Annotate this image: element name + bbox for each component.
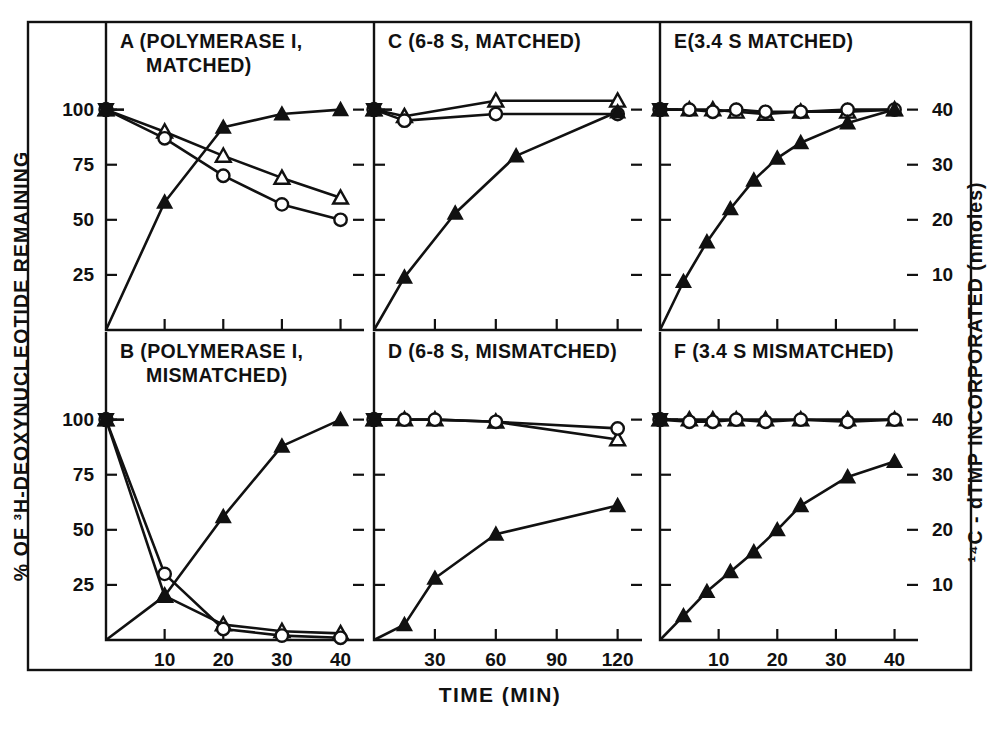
ytick-label-right: 40 bbox=[932, 99, 953, 120]
data-marker-filled-triangle bbox=[794, 498, 808, 511]
ytick-label-left: 75 bbox=[73, 154, 95, 175]
origin-cluster-d bbox=[367, 412, 392, 427]
ytick-label-right: 10 bbox=[932, 264, 953, 285]
ytick-label-left: 25 bbox=[73, 574, 95, 595]
data-marker-open-circle bbox=[759, 106, 771, 118]
xtick-label: 40 bbox=[884, 649, 905, 670]
markers-filled-triangle-c bbox=[397, 105, 625, 283]
xtick-label: 90 bbox=[546, 649, 567, 670]
series-filled-triangle-c bbox=[374, 112, 618, 330]
data-marker-open-circle bbox=[611, 422, 623, 434]
data-marker-open-circle bbox=[683, 416, 695, 428]
markers-filled-triangle-d bbox=[397, 498, 625, 630]
series-filled-triangle-f bbox=[660, 462, 895, 641]
series-filled-triangle-e bbox=[660, 110, 895, 330]
data-marker-open-circle bbox=[888, 413, 900, 425]
data-marker-open-circle bbox=[429, 413, 441, 425]
markers-filled-triangle-f bbox=[676, 454, 901, 621]
xtick-label: 20 bbox=[767, 649, 788, 670]
xtick-label: 30 bbox=[825, 649, 846, 670]
data-marker-open-circle bbox=[334, 214, 346, 226]
data-marker-filled-triangle bbox=[610, 498, 624, 511]
ytick-label-left: 50 bbox=[73, 209, 94, 230]
data-marker-open-circle bbox=[398, 114, 410, 126]
panel-c: C (6-8 S, MATCHED) bbox=[367, 22, 642, 330]
xtick-label: 30 bbox=[424, 649, 445, 670]
x-axis-title: TIME (MIN) bbox=[439, 683, 561, 706]
markers-open-triangle-b bbox=[99, 412, 348, 639]
panel-label-b-line2: MISMATCHED) bbox=[146, 364, 288, 386]
ytick-label-right: 40 bbox=[932, 409, 953, 430]
data-marker-open-circle bbox=[158, 568, 170, 580]
series-filled-triangle-b bbox=[106, 420, 341, 640]
ytick-label-left: 75 bbox=[73, 464, 95, 485]
panel-label-b: B (POLYMERASE I, bbox=[120, 340, 303, 362]
panel-d: 306090120D (6-8 S, MISMATCHED) bbox=[367, 332, 642, 670]
data-marker-open-circle bbox=[730, 103, 742, 115]
markers-filled-triangle-a bbox=[157, 102, 347, 208]
ytick-label-right: 20 bbox=[932, 209, 953, 230]
series-path bbox=[660, 110, 895, 330]
data-marker-filled-triangle bbox=[509, 149, 523, 162]
ytick-label-left: 25 bbox=[73, 264, 95, 285]
series-path bbox=[106, 420, 341, 634]
data-marker-open-circle bbox=[334, 632, 346, 644]
panel-axes-f bbox=[660, 332, 918, 640]
data-marker-open-circle bbox=[490, 416, 502, 428]
panel-axes-e bbox=[660, 22, 918, 330]
data-marker-open-circle bbox=[841, 103, 853, 115]
panel-label-e: E(3.4 S MATCHED) bbox=[674, 30, 853, 52]
panel-a: 100755025A (POLYMERASE I,MATCHED) bbox=[62, 22, 364, 330]
xtick-label: 10 bbox=[708, 649, 729, 670]
panel-label-a-line2: MATCHED) bbox=[146, 54, 252, 76]
panel-label-d: D (6-8 S, MISMATCHED) bbox=[388, 340, 617, 362]
data-marker-open-circle bbox=[276, 198, 288, 210]
series-open-triangle-b bbox=[106, 420, 341, 634]
markers-filled-triangle-b bbox=[157, 412, 347, 601]
markers-open-circle-b bbox=[100, 413, 347, 644]
ytick-label-left: 100 bbox=[62, 409, 94, 430]
data-marker-open-circle bbox=[398, 413, 410, 425]
series-path bbox=[374, 112, 618, 330]
figure-root: 100755025A (POLYMERASE I,MATCHED)1007550… bbox=[0, 0, 999, 729]
series-path bbox=[660, 462, 895, 641]
ytick-label-right: 20 bbox=[932, 519, 953, 540]
markers-filled-triangle-e bbox=[676, 102, 901, 287]
data-marker-open-circle bbox=[841, 416, 853, 428]
ytick-label-right: 30 bbox=[932, 464, 953, 485]
xtick-label: 10 bbox=[154, 649, 175, 670]
data-marker-open-circle bbox=[683, 103, 695, 115]
panel-axes-c bbox=[374, 22, 642, 330]
data-marker-open-circle bbox=[158, 132, 170, 144]
series-filled-triangle-a bbox=[106, 110, 341, 330]
data-marker-filled-triangle bbox=[887, 454, 901, 467]
panel-e: 40302010E(3.4 S MATCHED) bbox=[653, 22, 954, 330]
ytick-label-left: 50 bbox=[73, 519, 94, 540]
data-marker-open-circle bbox=[795, 106, 807, 118]
xtick-label: 20 bbox=[213, 649, 234, 670]
data-marker-filled-triangle bbox=[333, 412, 347, 425]
y-axis-title-left: % OF ³H-DEOXYNUCLEOTIDE REMAINING bbox=[10, 151, 32, 582]
panel-b: 10075502510203040B (POLYMERASE I,MISMATC… bbox=[62, 332, 364, 670]
series-path bbox=[106, 420, 341, 640]
series-path bbox=[106, 110, 341, 330]
xtick-label: 120 bbox=[602, 649, 634, 670]
panel-axes-d bbox=[374, 332, 642, 640]
xtick-label: 30 bbox=[271, 649, 292, 670]
panel-label-f: F (3.4 S MISMATCHED) bbox=[674, 340, 894, 362]
ytick-label-right: 30 bbox=[932, 154, 953, 175]
data-marker-open-circle bbox=[795, 413, 807, 425]
origin-cluster-e bbox=[653, 102, 678, 117]
data-marker-open-circle bbox=[490, 108, 502, 120]
data-marker-filled-triangle bbox=[770, 151, 784, 164]
data-marker-open-circle bbox=[276, 629, 288, 641]
panel-f: 4030201010203040F (3.4 S MISMATCHED) bbox=[653, 332, 954, 670]
origin-cluster-b bbox=[99, 412, 124, 427]
origin-cluster-f bbox=[653, 412, 678, 427]
data-marker-open-circle bbox=[217, 170, 229, 182]
data-marker-open-circle bbox=[707, 106, 719, 118]
ytick-label-right: 10 bbox=[932, 574, 953, 595]
data-marker-open-circle bbox=[759, 416, 771, 428]
data-marker-open-circle bbox=[730, 413, 742, 425]
data-marker-filled-triangle bbox=[676, 274, 690, 287]
